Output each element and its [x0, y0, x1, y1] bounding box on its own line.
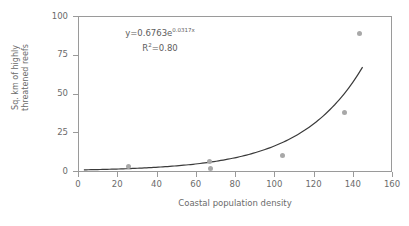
- x-tick-label: 140: [333, 179, 373, 189]
- x-tick-mark: [392, 172, 393, 177]
- x-tick-label: 80: [215, 179, 255, 189]
- x-tick-mark: [274, 172, 275, 177]
- data-point: [126, 164, 131, 169]
- x-tick-mark: [196, 172, 197, 177]
- y-axis-title: Sq. km of highly threatened reefs: [11, 23, 30, 133]
- plot-area: [78, 16, 392, 171]
- x-tick-mark: [157, 172, 158, 177]
- y-axis-title-line2: threatened reefs: [20, 44, 29, 111]
- x-axis-title: Coastal population density: [78, 198, 392, 208]
- y-tick-label-text: 100: [22, 12, 68, 21]
- x-tick-label: 120: [294, 179, 334, 189]
- x-tick-label: 0: [58, 179, 98, 189]
- x-tick-label: 160: [372, 179, 409, 189]
- x-tick-label: 100: [254, 179, 294, 189]
- x-tick-mark: [353, 172, 354, 177]
- y-axis-title-line1: Sq. km of highly: [11, 45, 20, 110]
- trend-line: [78, 16, 392, 171]
- chart-container: 0255075100 020406080100120140160 Sq. km …: [0, 0, 409, 226]
- data-point: [280, 153, 285, 158]
- data-point: [208, 166, 213, 171]
- x-tick-mark: [235, 172, 236, 177]
- y-tick-label-text: 0: [22, 167, 68, 176]
- data-point: [357, 31, 362, 36]
- x-tick-label: 40: [137, 179, 177, 189]
- x-tick-mark: [117, 172, 118, 177]
- x-tick-mark: [78, 172, 79, 177]
- x-tick-label: 60: [176, 179, 216, 189]
- y-tick-label: 0: [22, 167, 68, 176]
- x-tick-mark: [314, 172, 315, 177]
- x-tick-label: 20: [97, 179, 137, 189]
- y-tick-label: 100: [22, 12, 68, 21]
